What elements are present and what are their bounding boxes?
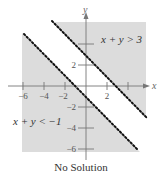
tick-label-y-2: 2	[72, 60, 77, 70]
inequality-graph: −6 −4 −2 2 2 −2 −4 −6 x y x + y > 3 x + …	[0, 0, 162, 160]
inequality-label-lower: x + y < −1	[12, 115, 62, 127]
x-axis-label: x	[151, 80, 157, 91]
tick-label-x-neg2: −2	[58, 91, 68, 101]
tick-label-y-neg2: −2	[66, 102, 76, 112]
tick-label-x-neg4: −4	[39, 91, 49, 101]
tick-label-x-neg6: −6	[18, 91, 28, 101]
tick-label-x-2: 2	[105, 91, 110, 101]
x-axis-arrow	[143, 84, 150, 89]
y-axis-label: y	[82, 4, 88, 15]
tick-label-y-neg4: −4	[66, 123, 76, 133]
tick-label-y-neg6: −6	[66, 144, 76, 154]
caption: No Solution	[0, 161, 162, 173]
inequality-label-upper: x + y > 3	[100, 33, 143, 45]
